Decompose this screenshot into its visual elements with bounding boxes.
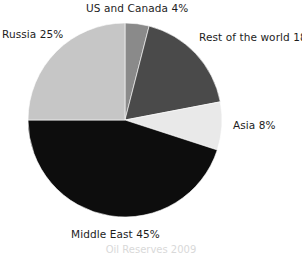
pie-chart-figure: US and Canada 4% Rest of the world 18% A… bbox=[0, 0, 302, 256]
pie-label-russia: Russia 25% bbox=[2, 28, 63, 40]
cut-off-caption-text: Oil Reserves 2009 bbox=[0, 245, 302, 256]
cut-off-caption: Oil Reserves 2009 bbox=[0, 245, 302, 256]
pie-slice-group bbox=[28, 23, 222, 217]
pie-label-asia: Asia 8% bbox=[233, 119, 276, 131]
pie-label-middle-east: Middle East 45% bbox=[71, 228, 160, 240]
pie-label-rest-of-the-world: Rest of the world 18% bbox=[199, 31, 302, 43]
pie-label-us-and-canada: US and Canada 4% bbox=[86, 2, 188, 14]
